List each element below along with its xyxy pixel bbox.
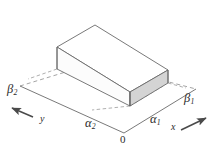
figure-container: β2 β1 α2 α1 y x 0	[0, 0, 218, 149]
plate-solid-group	[57, 25, 168, 106]
y-axis-arrow	[12, 108, 33, 117]
label-beta-2: β2	[7, 83, 17, 97]
projection-line-alpha2	[92, 106, 130, 110]
label-origin: 0	[120, 134, 126, 145]
label-alpha-2: α2	[85, 117, 96, 131]
label-alpha-1-symbol: α	[150, 112, 157, 126]
label-beta-2-subscript: 2	[13, 88, 17, 97]
label-alpha-1: α1	[150, 113, 161, 127]
label-beta-1: β1	[184, 92, 194, 106]
label-y-axis: y	[40, 114, 44, 124]
projection-line-beta2	[28, 69, 57, 79]
label-alpha-1-subscript: 1	[157, 118, 161, 127]
x-axis-arrow	[181, 118, 206, 130]
label-beta-1-subscript: 1	[190, 97, 194, 106]
label-alpha-2-subscript: 2	[92, 122, 96, 131]
label-alpha-2-symbol: α	[85, 116, 92, 130]
label-x-axis: x	[171, 122, 175, 132]
plate-diagram-svg	[0, 0, 218, 149]
